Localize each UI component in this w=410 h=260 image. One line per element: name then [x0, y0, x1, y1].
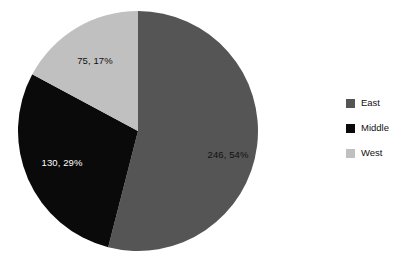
pie-chart: 246, 54% 130, 29% 75, 17% East Middle We… [0, 0, 410, 260]
legend-swatch-west-icon [346, 149, 355, 158]
chart-legend: East Middle West [346, 98, 410, 158]
pie-label-east: 246, 54% [208, 149, 249, 160]
pie-svg: 246, 54% 130, 29% 75, 17% [0, 0, 290, 260]
legend-item-middle[interactable]: Middle [346, 123, 410, 133]
legend-item-east[interactable]: East [346, 98, 410, 108]
pie-slices [18, 11, 258, 251]
pie-label-middle: 130, 29% [42, 157, 83, 168]
legend-label-middle: Middle [361, 123, 389, 133]
legend-swatch-middle-icon [346, 124, 355, 133]
pie-label-west: 75, 17% [77, 55, 113, 66]
legend-label-west: West [361, 148, 382, 158]
legend-label-east: East [361, 98, 380, 108]
pie-plot-area: 246, 54% 130, 29% 75, 17% [0, 0, 290, 260]
legend-item-west[interactable]: West [346, 148, 410, 158]
legend-swatch-east-icon [346, 99, 355, 108]
